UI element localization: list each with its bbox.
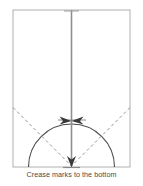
origami-figure-canvas [0, 0, 143, 186]
figure-caption: Crease marks to the bottom [0, 170, 143, 179]
origami-diagram: Crease marks to the bottom [0, 0, 143, 186]
